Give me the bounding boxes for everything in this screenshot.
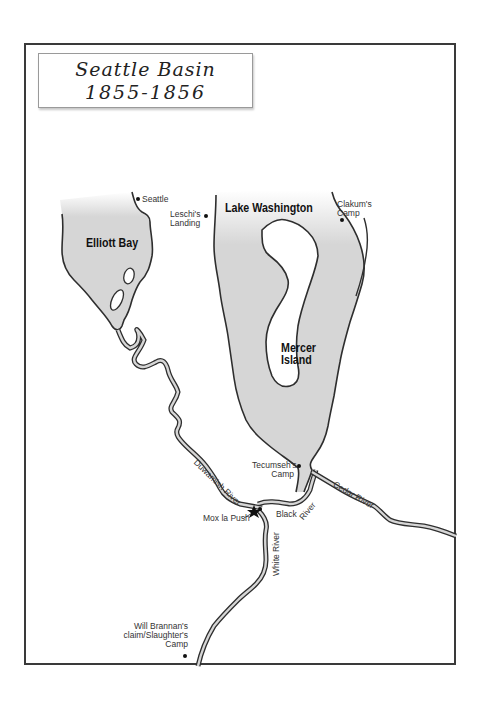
label-white-river: White River — [272, 532, 281, 576]
label-tecumsehs-camp: Tecumseh's Camp — [252, 461, 294, 479]
tecumsehs-camp-dot — [297, 464, 301, 468]
black-river-dot — [258, 507, 262, 511]
label-clakums-camp: Clakum's Camp — [337, 200, 372, 218]
label-will-brannans-claim: Will Brannan's claim/Slaughter's Camp — [120, 622, 188, 649]
will-brannans-claim-dot — [183, 654, 187, 658]
label-elliott-bay: Elliott Bay — [86, 236, 138, 249]
label-lake-washington: Lake Washington — [225, 201, 313, 214]
map-date-range: 1855-1856 — [39, 81, 252, 103]
map-title: Seattle Basin — [39, 58, 252, 80]
label-seattle: Seattle — [142, 195, 168, 204]
leschis-landing-dot — [204, 214, 208, 218]
elliott-bay-shape — [60, 192, 153, 330]
map-title-box: Seattle Basin 1855-1856 — [38, 53, 253, 108]
label-leschis-landing: Leschi's Landing — [170, 210, 198, 228]
seattle-dot — [136, 197, 140, 201]
label-mercer-island: Mercer Island — [281, 342, 314, 366]
white-river-shape — [198, 510, 267, 666]
clakums-camp-dot — [340, 218, 344, 222]
label-black-river-word1: Black — [276, 510, 297, 519]
label-mox-la-push: Mox la Push — [203, 514, 250, 523]
